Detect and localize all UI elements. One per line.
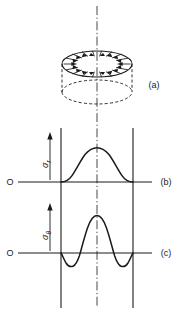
stress-direction-arrow-c — [47, 203, 52, 251]
panel-b: σr O (b) — [6, 132, 171, 187]
radial-arrow — [89, 51, 94, 56]
panel-c: σθ O (c) — [6, 203, 171, 267]
radial-arrow — [100, 51, 105, 56]
radial-arrow — [118, 62, 130, 66]
panel-label-c: (c) — [161, 248, 172, 258]
panel-label-a: (a) — [149, 80, 160, 90]
radial-arrow — [82, 71, 88, 76]
radial-arrow — [73, 54, 82, 59]
panel-label-b: (b) — [161, 177, 172, 187]
axis-label-c-group: σθ — [40, 231, 52, 240]
radial-arrow — [64, 62, 76, 66]
panel-a: (a) — [62, 51, 160, 104]
stress-arrow-head-b — [47, 132, 52, 140]
radial-arrow — [100, 72, 105, 77]
axis-label-c: σθ — [40, 231, 52, 240]
radial-arrow — [82, 52, 88, 57]
figure-svg: (a) σr O (b) — [0, 0, 185, 315]
origin-label-c: O — [6, 248, 13, 258]
origin-label-b: O — [6, 177, 13, 187]
radial-arrow — [106, 52, 112, 57]
radial-arrow — [113, 54, 122, 59]
axis-label-b-group: σr — [40, 160, 52, 168]
radial-arrow — [89, 72, 94, 77]
axis-label-b: σr — [40, 160, 52, 168]
radial-arrow — [106, 71, 112, 76]
stress-direction-arrow-b — [47, 132, 52, 180]
figure-container: (a) σr O (b) — [0, 0, 185, 315]
boundary-lines — [61, 128, 133, 308]
radial-arrow — [113, 69, 122, 74]
radial-arrow — [73, 69, 82, 74]
stress-arrow-head-c — [47, 203, 52, 211]
